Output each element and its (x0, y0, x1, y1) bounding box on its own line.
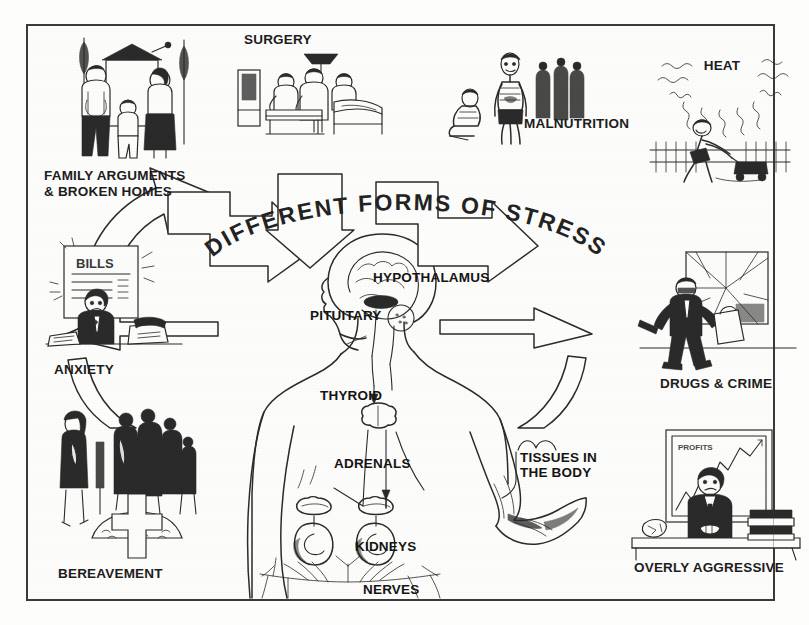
panel-bereavement: BEREAVEMENT (48, 402, 208, 582)
panel-malnutrition: MALNUTRITION (448, 48, 648, 144)
mourners-grave-cross-icon (48, 402, 208, 564)
panel-anxiety: BILLS (42, 238, 192, 378)
title-textpath: DIFFERENT FORMS OF STRESS (200, 189, 612, 262)
adrenal-kidney-right (356, 497, 395, 565)
caption-bereavement: BEREAVEMENT (58, 566, 208, 582)
panel-overly-aggressive: PROFITS (632, 426, 804, 576)
caption-heat: HEAT (692, 58, 752, 74)
caption-overly-aggressive: OVERLY AGGRESSIVE (634, 560, 804, 576)
surgery-operating-table-icon (230, 50, 390, 140)
caption-surgery: SURGERY (244, 32, 390, 48)
worried-person-bills-icon: BILLS (42, 238, 192, 360)
panel-surgery: SURGERY (230, 32, 390, 140)
sun-heat-rays-icon (650, 32, 790, 182)
poster-bills-text: BILLS (76, 256, 114, 271)
caption-anxiety: ANXIETY (54, 362, 192, 378)
label-hypothalamus: HYPOTHALAMUS (373, 270, 489, 285)
figure-frame: DIFFERENT FORMS OF STRESS HYPOTHALAMUS P… (26, 24, 775, 601)
executive-desk-chart-icon: PROFITS (632, 426, 804, 560)
adrenal-kidney-left (294, 497, 333, 565)
panel-drugs-crime: DRUGS & CRIME (640, 248, 800, 392)
label-pituitary: PITUITARY (310, 308, 382, 323)
diagram-title-text: DIFFERENT FORMS OF STRESS (200, 189, 612, 262)
label-adrenals: ADRENALS (334, 456, 411, 471)
panel-family-arguments: FAMILY ARGUMENTS & BROKEN HOMES (44, 32, 214, 200)
caption-malnutrition: MALNUTRITION (524, 116, 629, 132)
panel-heat: HEAT (650, 32, 790, 182)
label-nerves: NERVES (363, 582, 419, 597)
figure-canvas: DIFFERENT FORMS OF STRESS HYPOTHALAMUS P… (0, 0, 809, 625)
stress-arrow-8 (518, 356, 586, 428)
caption-drugs-crime: DRUGS & CRIME (660, 376, 800, 392)
tissues-pointer-bracket (514, 434, 600, 516)
label-thyroid: THYROID (320, 388, 382, 403)
chart-title-text: PROFITS (678, 443, 713, 452)
diagram-title: DIFFERENT FORMS OF STRESS (196, 184, 616, 276)
caption-family-arguments: FAMILY ARGUMENTS & BROKEN HOMES (44, 168, 214, 200)
label-kidneys: KIDNEYS (355, 539, 416, 554)
family-argument-icon (44, 32, 214, 164)
burglar-broken-window-icon (640, 248, 800, 376)
stress-arrow-7 (440, 308, 592, 348)
